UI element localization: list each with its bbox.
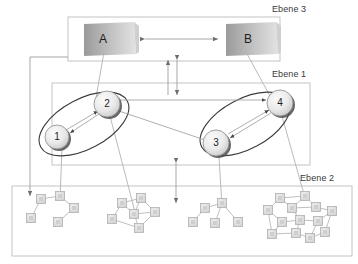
layer-label-ebene3: Ebene 3 xyxy=(272,4,306,14)
cluster-2-node-core xyxy=(120,201,124,205)
cluster-4-node-core xyxy=(294,231,298,235)
layer-label-ebene2: Ebene 2 xyxy=(300,173,334,183)
cluster-2-node-core xyxy=(139,196,143,200)
map-node2-to-cluster2 xyxy=(110,116,135,212)
cluster-3-node-core xyxy=(213,221,217,225)
cluster-3-node-core xyxy=(220,201,224,205)
cluster-1 xyxy=(27,192,79,227)
cluster-4-node-core xyxy=(266,208,270,212)
map-b-to-node4 xyxy=(246,52,270,96)
node-label-3: 3 xyxy=(207,137,225,148)
cluster-1-node-core xyxy=(56,220,60,224)
box-label-b: B xyxy=(240,32,256,46)
cluster-graphs xyxy=(27,192,337,243)
cluster-4-node-core xyxy=(316,219,320,223)
cluster-4-node-core xyxy=(323,230,327,234)
cluster-2 xyxy=(108,194,160,233)
link-node3-node4 xyxy=(228,110,269,134)
cluster-4-node-core xyxy=(298,218,302,222)
cluster-1-node-core xyxy=(58,194,62,198)
cluster-3-node-core xyxy=(236,220,240,224)
cluster-2-node-core xyxy=(110,217,114,221)
cluster-4 xyxy=(264,192,337,243)
link-node1-node2 xyxy=(66,111,98,130)
node-label-2: 2 xyxy=(98,98,116,109)
cluster-3-node-core xyxy=(191,220,195,224)
node-label-1: 1 xyxy=(48,131,66,142)
cluster-4-node-core xyxy=(290,206,294,210)
diagram-canvas: Ebene 3 Ebene 1 Ebene 2 A B 1 2 3 4 xyxy=(0,0,358,264)
cluster-4-node-core xyxy=(278,196,282,200)
cluster-2-node-core xyxy=(137,226,141,230)
cluster-4-node-core xyxy=(280,220,284,224)
layer3-box-a xyxy=(84,22,139,56)
cluster-1-node-core xyxy=(29,216,33,220)
layer-label-ebene1: Ebene 1 xyxy=(272,69,306,79)
node-label-4: 4 xyxy=(271,97,289,108)
cluster-3-node-core xyxy=(203,206,207,210)
link-node2-node3 xyxy=(116,110,205,140)
map-a-to-node2 xyxy=(96,52,104,98)
cluster-4-node-core xyxy=(303,194,307,198)
cluster-2-node-core xyxy=(132,212,136,216)
link-node2-node1 xyxy=(70,114,99,133)
box-label-a: A xyxy=(95,32,111,46)
cluster-4-node-core xyxy=(308,236,312,240)
cluster-3 xyxy=(189,199,243,228)
cluster-2-node-core xyxy=(153,210,157,214)
cluster-4-node-core xyxy=(270,232,274,236)
cluster-4-node-core xyxy=(330,209,334,213)
cluster-1-node-core xyxy=(39,197,43,201)
cluster-1-node-core xyxy=(72,206,76,210)
cluster-4-node-core xyxy=(314,205,318,209)
group-ellipses xyxy=(29,79,300,169)
link-node4-node3 xyxy=(230,113,271,138)
